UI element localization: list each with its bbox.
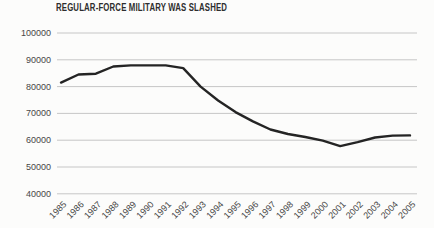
x-tick-label: 2004	[379, 199, 400, 220]
data-line-series	[61, 65, 410, 146]
y-tick-label: 90000	[26, 55, 51, 65]
x-tick-label: 1993	[187, 199, 208, 220]
x-tick-label: 2001	[326, 199, 347, 220]
x-tick-label: 1990	[134, 199, 155, 220]
x-tick-label: 2005	[396, 199, 417, 220]
x-tick-label: 1998	[274, 199, 295, 220]
x-tick-label: 1991	[152, 199, 173, 220]
y-tick-label: 40000	[26, 189, 51, 199]
x-tick-label: 2002	[344, 199, 365, 220]
y-tick-label: 60000	[26, 135, 51, 145]
y-tick-label: 50000	[26, 162, 51, 172]
x-tick-label: 1996	[239, 199, 260, 220]
x-tick-label: 1994	[204, 199, 225, 220]
x-tick-label: 1986	[65, 199, 86, 220]
y-tick-label: 100000	[21, 28, 51, 38]
x-tick-label: 1997	[257, 199, 278, 220]
y-tick-label: 80000	[26, 82, 51, 92]
x-tick-label: 2000	[309, 199, 330, 220]
line-chart: 4000050000600007000080000900001000001985…	[0, 0, 434, 228]
chart-figure: REGULAR-FORCE MILITARY WAS SLASHED 40000…	[0, 0, 434, 228]
x-tick-label: 2003	[361, 199, 382, 220]
x-tick-label: 1999	[291, 199, 312, 220]
x-tick-label: 1989	[117, 199, 138, 220]
x-tick-label: 1988	[100, 199, 121, 220]
x-tick-label: 1987	[82, 199, 103, 220]
x-tick-label: 1992	[169, 199, 190, 220]
x-tick-label: 1995	[222, 199, 243, 220]
y-tick-label: 70000	[26, 108, 51, 118]
x-tick-label: 1985	[47, 199, 68, 220]
